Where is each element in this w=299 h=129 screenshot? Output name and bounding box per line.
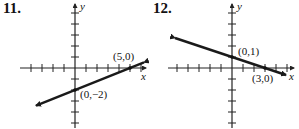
coordinate-plane-11: y x (5,0) (0,−2) — [0, 0, 150, 129]
x-axis-label-12: x — [288, 70, 294, 82]
y-axis-label-12: y — [236, 0, 242, 12]
graph-panel-12: 12. — [150, 0, 299, 129]
point-0-neg2 — [73, 88, 77, 92]
point-5-0 — [128, 66, 132, 70]
point-label-5-0: (5,0) — [113, 50, 134, 63]
point-label-3-0: (3,0) — [252, 72, 273, 85]
point-label-0-1: (0,1) — [238, 45, 259, 58]
graph-panel-11: 11. — [0, 0, 150, 129]
x-axis-label-11: x — [140, 70, 146, 82]
point-0-1 — [230, 55, 234, 59]
point-label-0-neg2: (0,−2) — [80, 88, 108, 101]
y-axis-label-11: y — [79, 0, 85, 12]
coordinate-plane-12: y x (0,1) (3,0) — [150, 0, 299, 129]
point-3-0 — [263, 66, 267, 70]
